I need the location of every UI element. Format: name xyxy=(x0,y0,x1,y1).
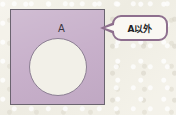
figure-canvas: A A以外 xyxy=(0,0,176,115)
callout-label: A以外 xyxy=(114,22,166,35)
callout-bubble: A以外 xyxy=(112,15,168,41)
set-a-circle xyxy=(29,38,87,96)
set-a-label: A xyxy=(58,23,65,34)
universal-set-square: A xyxy=(10,9,105,105)
callout-pointer-inner-icon xyxy=(105,25,114,31)
